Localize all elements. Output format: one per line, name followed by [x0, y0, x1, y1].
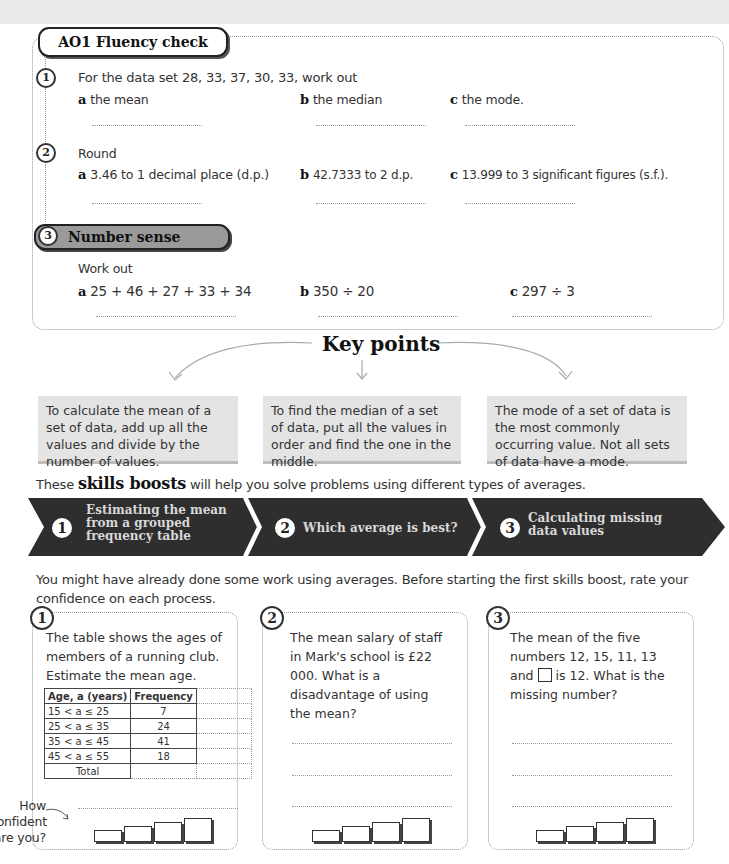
answer-line-q3b[interactable]: [318, 316, 458, 317]
confidence-step-2[interactable]: [566, 826, 594, 842]
q3-prompt: Work out: [78, 261, 133, 276]
frequency-table: Age, a (years) Frequency 15 < a ≤ 25 7 2…: [44, 688, 252, 779]
table-cell-blank[interactable]: [131, 764, 197, 779]
number-sense-title: Number sense: [34, 224, 230, 250]
answer-line-card3-2[interactable]: [512, 775, 672, 776]
q1-part-a: athe mean: [78, 92, 149, 107]
table-header: Age, a (years): [45, 689, 131, 704]
skill-label-1: Estimating the mean from a grouped frequ…: [86, 504, 236, 543]
table-row: Total: [45, 764, 252, 779]
answer-line-q1b[interactable]: [316, 125, 426, 126]
confidence-step-1[interactable]: [312, 830, 340, 842]
connector-line: [45, 56, 46, 68]
answer-line-card2-3[interactable]: [292, 806, 452, 807]
table-cell-blank[interactable]: [196, 734, 251, 749]
confidence-step-3[interactable]: [372, 822, 400, 842]
card-number-2: 2: [260, 606, 284, 630]
q3-part-a: a25 + 46 + 27 + 33 + 34: [78, 283, 251, 299]
missing-number-box: [538, 668, 552, 682]
fluency-check-title: AO1 Fluency check: [38, 27, 228, 57]
q1-part-c: cthe mode.: [450, 92, 524, 107]
table-cell-blank[interactable]: [196, 704, 251, 719]
confidence-step-2[interactable]: [124, 826, 152, 842]
question-number-1: 1: [36, 68, 56, 88]
confidence-step-1[interactable]: [536, 830, 564, 842]
card-number-3: 3: [486, 606, 510, 630]
question-number-2: 2: [36, 143, 56, 163]
answer-line-card2-2[interactable]: [292, 775, 452, 776]
table-cell-blank[interactable]: [196, 749, 251, 764]
q3-part-c: c297 ÷ 3: [510, 283, 575, 299]
card-3-text: The mean of the five numbers 12, 15, 11,…: [510, 628, 680, 704]
q2-part-b: b42.7333 to 2 d.p.: [300, 167, 413, 182]
confidence-rating-2[interactable]: [312, 814, 432, 842]
key-points-title: Key points: [322, 332, 440, 356]
key-point-mean: To calculate the mean of a set of data, …: [38, 396, 238, 464]
curved-arrow-icon: [44, 806, 72, 824]
confidence-step-2[interactable]: [342, 826, 370, 842]
confidence-question-label: How confident are you?: [0, 798, 46, 846]
answer-line-card3-1[interactable]: [512, 743, 672, 744]
skill-label-2: Which average is best?: [303, 522, 463, 535]
confidence-step-3[interactable]: [596, 822, 624, 842]
answer-line-q2c[interactable]: [465, 203, 575, 204]
connector-line: [45, 164, 46, 222]
confidence-rating-3[interactable]: [536, 814, 656, 842]
rate-confidence-intro: You might have already done some work us…: [36, 570, 716, 608]
answer-line-q1c[interactable]: [465, 125, 575, 126]
answer-line-q2b[interactable]: [316, 203, 426, 204]
q2-part-a: a3.46 to 1 decimal place (d.p.): [78, 167, 269, 182]
card-number-1: 1: [30, 606, 54, 630]
q2-prompt: Round: [78, 146, 117, 161]
answer-line-card2-1[interactable]: [292, 743, 452, 744]
table-cell-blank[interactable]: [196, 719, 251, 734]
q3-part-b: b350 ÷ 20: [300, 283, 374, 299]
answer-line-card1[interactable]: [78, 808, 238, 809]
answer-line-q3c[interactable]: [512, 316, 652, 317]
table-row: 45 < a ≤ 55 18: [45, 749, 252, 764]
answer-line-q2a[interactable]: [92, 203, 202, 204]
confidence-step-4[interactable]: [184, 818, 212, 842]
q1-part-b: bthe median: [300, 92, 382, 107]
q2-part-c: c13.999 to 3 significant figures (s.f.).: [450, 167, 668, 182]
confidence-step-3[interactable]: [154, 822, 182, 842]
card-1-text: The table shows the ages of members of a…: [46, 628, 246, 685]
skills-boost-intro: These skills boosts will help you solve …: [36, 474, 586, 493]
page-top-margin: [0, 0, 729, 24]
answer-line-q3a[interactable]: [96, 316, 236, 317]
key-point-mode: The mode of a set of data is the most co…: [487, 396, 687, 464]
question-number-3: 3: [38, 226, 58, 246]
table-cell-blank[interactable]: [196, 689, 251, 704]
confidence-step-1[interactable]: [94, 830, 122, 842]
table-row: 15 < a ≤ 25 7: [45, 704, 252, 719]
answer-line-card3-3[interactable]: [512, 806, 672, 807]
confidence-step-4[interactable]: [626, 818, 654, 842]
confidence-rating-1[interactable]: [94, 814, 214, 842]
skill-number-2: 2: [275, 518, 295, 538]
confidence-step-4[interactable]: [402, 818, 430, 842]
answer-line-q1a[interactable]: [92, 125, 202, 126]
table-cell-blank[interactable]: [196, 764, 251, 779]
table-row: 35 < a ≤ 45 41: [45, 734, 252, 749]
skill-number-3: 3: [500, 518, 520, 538]
connector-line: [45, 88, 46, 144]
q1-prompt: For the data set 28, 33, 37, 30, 33, wor…: [78, 70, 357, 85]
skill-label-3: Calculating missing data values: [528, 512, 678, 538]
table-header: Frequency: [131, 689, 197, 704]
card-2-text: The mean salary of staff in Mark's schoo…: [290, 628, 450, 723]
table-row: 25 < a ≤ 35 24: [45, 719, 252, 734]
skill-number-1: 1: [52, 518, 72, 538]
key-point-median: To find the median of a set of data, put…: [263, 396, 461, 464]
